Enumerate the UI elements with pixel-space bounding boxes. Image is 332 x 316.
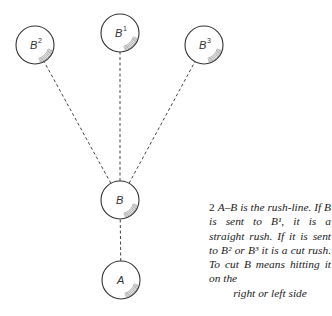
ball-b1: B1: [101, 14, 139, 52]
dashed-line-b-b3: [129, 62, 195, 184]
ball-superscript: 2: [38, 37, 42, 44]
ball-b2: B2: [16, 26, 54, 64]
caption-text: A–B is the rush-line. If B is sent to B¹…: [209, 201, 331, 284]
dashed-line-a-b: [120, 219, 121, 261]
ball-label: B: [115, 27, 122, 39]
caption-number: 2: [209, 201, 215, 213]
ball-superscript: 3: [207, 37, 211, 44]
shot-lines: [44, 52, 195, 261]
ball-label: B: [116, 194, 123, 206]
dashed-line-b-b2: [44, 62, 111, 184]
ball-b3: B3: [185, 26, 223, 64]
ball-b: B: [101, 181, 139, 219]
ball-label: B: [199, 39, 206, 51]
figure-caption: 2A–B is the rush-line. If B is sent to B…: [209, 200, 331, 300]
ball-superscript: 1: [123, 25, 127, 32]
ball-label: B: [30, 39, 37, 51]
ball-a: A: [102, 261, 140, 299]
ball-label: A: [116, 274, 124, 286]
caption-last-line: right or left side: [209, 286, 331, 300]
